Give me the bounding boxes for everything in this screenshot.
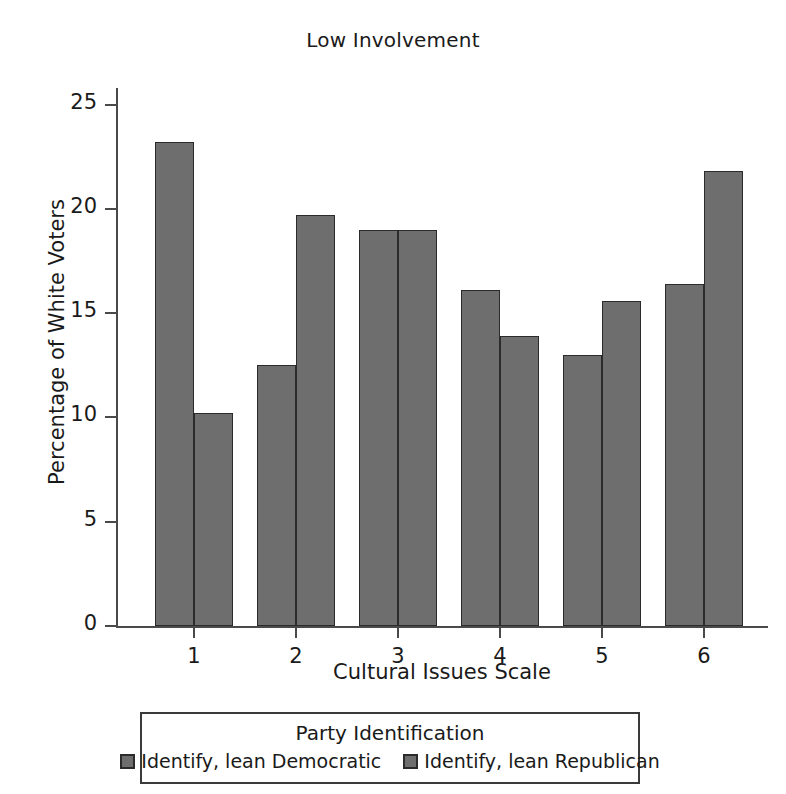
- chart-figure: Low Involvement 0510152025 123456 Percen…: [0, 0, 786, 794]
- x-axis-tick: [499, 626, 501, 638]
- bar: [257, 365, 296, 626]
- y-axis-tick: 25: [105, 104, 116, 106]
- chart-title: Low Involvement: [0, 28, 786, 52]
- bar: [194, 413, 233, 626]
- y-axis-tick: 10: [105, 416, 116, 418]
- legend-title: Party Identification: [152, 720, 628, 746]
- y-axis-tick-label: 5: [84, 508, 97, 530]
- bar: [704, 171, 743, 626]
- bar: [602, 301, 641, 626]
- y-axis-tick-label: 25: [70, 91, 97, 113]
- bar: [359, 230, 398, 626]
- bar: [155, 142, 194, 626]
- y-axis-tick: 20: [105, 208, 116, 210]
- y-axis-tick-label: 15: [70, 299, 97, 321]
- y-axis-tick-label: 0: [84, 612, 97, 634]
- bar: [500, 336, 539, 626]
- x-axis-tick: [295, 626, 297, 638]
- y-axis-tick: 5: [105, 521, 116, 523]
- plot-area: 0510152025 123456: [116, 88, 768, 626]
- y-axis-tick-label: 10: [70, 403, 97, 425]
- bar: [665, 284, 704, 626]
- y-axis-line: [116, 88, 118, 626]
- bar: [398, 230, 437, 626]
- legend-entries: Identify, lean DemocraticIdentify, lean …: [152, 749, 628, 773]
- legend-swatch: [120, 754, 135, 769]
- y-axis-title: Percentage of White Voters: [45, 82, 69, 602]
- bar: [563, 355, 602, 626]
- legend-label: Identify, lean Democratic: [141, 749, 381, 773]
- y-axis-tick: 0: [105, 625, 116, 627]
- x-axis-tick: [601, 626, 603, 638]
- bar: [296, 215, 335, 626]
- legend-entry: Identify, lean Republican: [403, 749, 659, 773]
- bar: [461, 290, 500, 626]
- legend: Party Identification Identify, lean Demo…: [140, 712, 640, 784]
- x-axis-tick: [397, 626, 399, 638]
- legend-entry: Identify, lean Democratic: [120, 749, 381, 773]
- x-axis-line: [116, 626, 768, 628]
- x-axis-tick: [193, 626, 195, 638]
- x-axis-title: Cultural Issues Scale: [116, 660, 768, 684]
- x-axis-tick: [703, 626, 705, 638]
- legend-swatch: [403, 754, 418, 769]
- legend-label: Identify, lean Republican: [424, 749, 659, 773]
- y-axis-tick-label: 20: [70, 195, 97, 217]
- y-axis-tick: 15: [105, 312, 116, 314]
